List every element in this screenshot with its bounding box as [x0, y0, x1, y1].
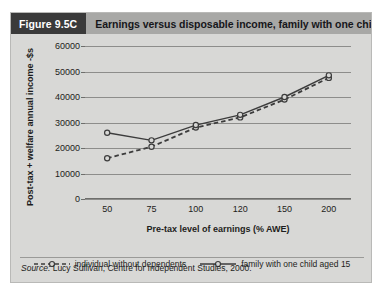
source-divider — [20, 257, 364, 258]
x-tick-label: 200 — [321, 204, 336, 214]
series-line — [107, 78, 329, 158]
data-point-marker — [326, 73, 331, 78]
series-layer — [85, 46, 351, 199]
figure-panel: Figure 9.5C Earnings versus disposable i… — [10, 12, 372, 283]
source-prefix: Source: — [21, 263, 50, 273]
x-tick-label: 50 — [102, 204, 112, 214]
y-tick-label: 10000 — [55, 169, 80, 179]
x-axis-title: Pre-tax level of earnings (% AWE) — [85, 224, 351, 234]
data-point-marker — [105, 130, 110, 135]
figure-number-badge: Figure 9.5C — [11, 13, 86, 34]
series-line — [107, 75, 329, 140]
source-note: Source: Lucy Sullivan, Centre for Indepe… — [21, 263, 252, 273]
plot-area: 0100002000030000400005000060000 50751001… — [85, 46, 351, 199]
source-text: Lucy Sullivan, Centre for Independent St… — [50, 263, 251, 273]
y-tick-label: 50000 — [55, 67, 80, 77]
data-point-marker — [149, 144, 154, 149]
legend-label-family: family with one child aged 15 — [241, 259, 350, 269]
data-point-marker — [105, 156, 110, 161]
x-tick-label: 75 — [146, 204, 156, 214]
chart-region: Post-tax + welfare annual income -$s 010… — [11, 34, 373, 284]
y-tick-label: 60000 — [55, 41, 80, 51]
y-tick-label: 30000 — [55, 118, 80, 128]
y-tick-label: 40000 — [55, 92, 80, 102]
x-tick-label: 120 — [233, 204, 248, 214]
gridline — [85, 199, 351, 200]
data-point-marker — [149, 138, 154, 143]
y-tick-mark — [81, 199, 85, 200]
data-point-marker — [238, 112, 243, 117]
figure-title: Earnings versus disposable income, famil… — [86, 13, 371, 34]
y-tick-label: 0 — [75, 194, 80, 204]
y-axis-title: Post-tax + welfare annual income -$s — [25, 47, 35, 207]
data-point-marker — [193, 122, 198, 127]
y-tick-label: 20000 — [55, 143, 80, 153]
figure-header: Figure 9.5C Earnings versus disposable i… — [11, 13, 371, 34]
x-tick-label: 150 — [277, 204, 292, 214]
x-tick-label: 100 — [188, 204, 203, 214]
data-point-marker — [282, 94, 287, 99]
